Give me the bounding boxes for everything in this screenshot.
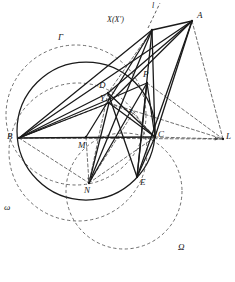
segment-YL [109, 103, 223, 139]
point-label-L: L [226, 132, 231, 141]
point-dot-L [222, 138, 224, 140]
point-label-N: N [84, 186, 90, 195]
point-label-M: M [78, 141, 86, 150]
point-dot-A [191, 20, 193, 22]
point-label-Y: Y [100, 94, 105, 103]
segment-BX [19, 30, 152, 138]
point-dot-M [85, 136, 87, 138]
points-group [18, 20, 224, 184]
circle-omega [9, 83, 147, 221]
point-dot-B [18, 137, 20, 139]
point-dot-Y [108, 102, 110, 104]
figure-canvas [0, 0, 235, 282]
point-label-A: A [197, 11, 203, 20]
point-dot-P [146, 82, 148, 84]
point-label-E: E [140, 178, 146, 187]
point-label-X: X(X′) [107, 16, 124, 24]
point-label-x: x [129, 107, 132, 114]
solid-segments-group [19, 21, 192, 183]
point-dot-N [88, 182, 90, 184]
segment-BP [19, 83, 147, 138]
point-dot-E [136, 176, 138, 178]
point-label-P: P [143, 70, 149, 79]
circle-label-bigomega: Ω [178, 243, 185, 252]
point-label-B: B [7, 132, 13, 141]
segment-MN [86, 137, 89, 183]
point-dot-D [107, 92, 109, 94]
point-dot-C [154, 136, 156, 138]
geometry-figure: A B C D E L M N P Y x X(X′) l Γ ω Ω [0, 0, 235, 282]
circle-label-omega: ω [4, 203, 10, 212]
point-dot-X [151, 29, 153, 31]
circle-label-gamma: Γ [58, 33, 63, 42]
line-label-l: l [152, 2, 154, 10]
dashed-segments-group [19, 21, 223, 183]
point-label-C: C [158, 130, 164, 139]
segment-AL [192, 21, 223, 139]
point-label-D: D [99, 81, 106, 90]
